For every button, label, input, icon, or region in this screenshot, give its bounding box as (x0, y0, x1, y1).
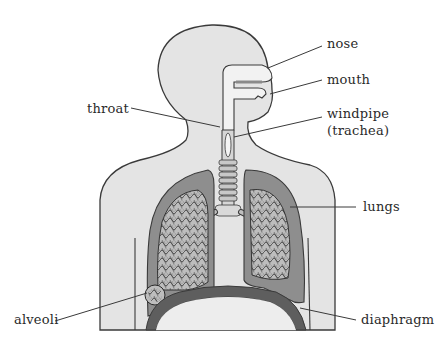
diagram-illustration (0, 0, 444, 347)
label-nose: nose (327, 36, 358, 51)
respiratory-diagram: nose mouth throat windpipe (trachea) lun… (0, 0, 444, 347)
label-throat: throat (87, 101, 129, 116)
label-alveoli: alveoli (14, 312, 59, 327)
label-diaphragm: diaphragm (361, 312, 434, 327)
label-mouth: mouth (327, 72, 370, 87)
label-windpipe: windpipe (327, 106, 389, 121)
label-lungs: lungs (363, 199, 400, 214)
label-trachea: (trachea) (327, 123, 389, 138)
